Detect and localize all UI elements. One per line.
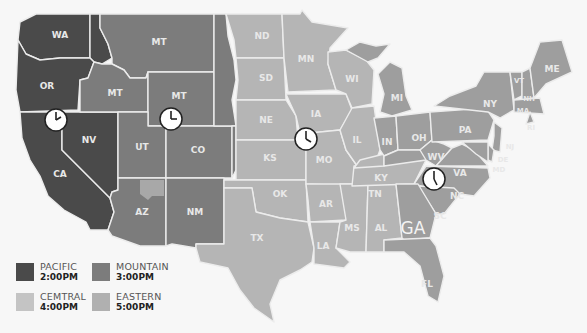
label-nc: NC [450,191,465,201]
label-me: ME [544,64,559,74]
label-nh: NH [523,95,535,103]
label-al: AL [375,223,388,233]
state-nj[interactable] [492,122,502,152]
label-tx: TX [250,233,263,243]
label-sc: SC [433,211,446,221]
swatch-mountain [92,263,110,281]
label-ms: MS [344,223,359,233]
label-ia: IA [311,109,321,119]
label-oh: OH [411,133,426,143]
label-nv: NV [82,135,97,145]
label-nj: NJ [506,143,514,151]
label-ny: NY [483,99,498,109]
label-az: AZ [135,207,149,217]
label-ga: GA [401,218,426,238]
label-md: MD [493,166,506,174]
label-la: LA [317,241,330,251]
label-wv: WV [428,152,445,162]
label-co: CO [191,145,206,155]
label-ri: RI [527,124,535,132]
label-ky: KY [374,173,388,183]
clock-central [295,128,317,150]
legend-item-pacific: PACIFIC 2:00PM [16,262,78,283]
label-nm: NM [187,207,204,217]
label-mn: MN [298,54,315,64]
state-fl[interactable] [384,238,444,302]
swatch-central [16,293,34,311]
label-mt-2: MT [107,88,123,98]
label-ca: CA [53,169,67,179]
label-mo: MO [316,155,333,165]
legend-time: 2:00PM [40,272,78,283]
label-nd: ND [254,31,269,41]
label-ok: OK [273,189,289,199]
state-mi[interactable] [378,62,412,116]
label-ma: MA [517,107,530,115]
label-wi: WI [345,74,358,84]
label-sd: SD [259,73,273,83]
label-pa: PA [459,125,472,135]
time-zone-legend: PACIFIC 2:00PM MOUNTAIN 3:00PM CEMTRAL 4… [16,262,216,332]
label-mt-3: MT [171,91,187,101]
clock-pacific [45,109,67,131]
legend-name: MOUNTAIN [116,262,169,272]
label-mi: MI [391,93,403,103]
label-vt: VT [514,77,524,85]
legend-name: CEMTRAL [40,292,86,302]
label-or: OR [40,81,55,91]
label-de: DE [498,156,509,164]
label-fl: FL [421,279,433,289]
swatch-eastern [92,293,110,311]
legend-name: EASTERN [116,292,161,302]
label-in: IN [382,137,393,147]
label-ks: KS [263,153,276,163]
legend-item-central: CEMTRAL 4:00PM [16,292,86,313]
label-ar: AR [319,199,333,209]
legend-item-mountain: MOUNTAIN 3:00PM [92,262,169,283]
label-il: IL [352,135,361,145]
legend-time: 3:00PM [116,272,169,283]
label-tn: TN [368,189,382,199]
legend-item-eastern: EASTERN 5:00PM [92,292,161,313]
label-wa: WA [52,30,69,40]
legend-name: PACIFIC [40,262,78,272]
legend-time: 5:00PM [116,302,161,313]
label-ut: UT [135,142,149,152]
swatch-pacific [16,263,34,281]
clock-eastern [423,168,445,190]
label-mt-1: MT [151,37,167,47]
label-ne: NE [259,115,273,125]
label-va: VA [453,168,466,178]
legend-time: 4:00PM [40,302,86,313]
clock-mountain [160,108,182,130]
